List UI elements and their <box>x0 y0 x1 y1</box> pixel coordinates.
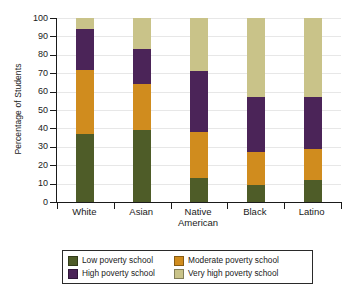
y-axis-tick-label: 20 <box>22 161 48 170</box>
y-axis-tick-label: 30 <box>22 142 48 151</box>
bar-segment <box>190 178 208 202</box>
y-axis-tick-label: 70 <box>22 69 48 78</box>
bar-latino <box>304 18 322 202</box>
bar-segment <box>247 18 265 97</box>
bar-segment <box>190 71 208 132</box>
x-axis-label: Latino <box>272 206 352 217</box>
legend-swatch <box>68 269 78 279</box>
y-axis-tick <box>50 55 57 56</box>
bar-white <box>76 18 94 202</box>
bar-segment <box>76 29 94 69</box>
chart-axes: 0102030405060708090100 <box>56 18 341 203</box>
legend-item: Moderate poverty school <box>174 256 306 266</box>
y-axis-tick-label: 50 <box>22 106 48 115</box>
legend-swatch <box>174 269 184 279</box>
legend-item: Low poverty school <box>68 256 172 266</box>
y-axis-tick-label: 100 <box>22 14 48 23</box>
y-axis-tick <box>50 18 57 19</box>
x-axis-label-line: Latino <box>272 206 352 217</box>
legend-label: Moderate poverty school <box>188 256 279 265</box>
bar-segment <box>304 18 322 97</box>
y-axis-tick <box>50 184 57 185</box>
legend-item: Very high poverty school <box>174 269 306 279</box>
legend-item: High poverty school <box>68 269 172 279</box>
y-axis-tick-label: 60 <box>22 87 48 96</box>
bar-segment <box>304 149 322 180</box>
legend-label: High poverty school <box>82 269 155 278</box>
bar-segment <box>247 185 265 202</box>
legend-swatch <box>174 256 184 266</box>
bar-segment <box>190 132 208 178</box>
y-axis-tick-label: 10 <box>22 179 48 188</box>
bar-segment <box>304 180 322 202</box>
bar-segment <box>133 49 151 84</box>
y-axis-tick <box>50 147 57 148</box>
y-axis-tick <box>50 165 57 166</box>
bar-segment <box>247 97 265 152</box>
bar-segment <box>133 84 151 130</box>
bar-segment <box>247 152 265 185</box>
y-axis-tick <box>50 73 57 74</box>
bar-segment <box>76 18 94 29</box>
y-axis-tick <box>50 36 57 37</box>
bar-segment <box>133 18 151 49</box>
legend-swatch <box>68 256 78 266</box>
bar-segment <box>76 70 94 134</box>
bar-segment <box>190 18 208 71</box>
x-axis-label-line: American <box>158 217 238 228</box>
plot-area: Percentage of Students 01020304050607080… <box>0 0 362 240</box>
bar-segment <box>133 130 151 202</box>
bar-segment <box>76 134 94 202</box>
y-axis-tick <box>50 202 57 203</box>
bar-segment <box>304 97 322 149</box>
stacked-bar-chart-figure: Percentage of Students 01020304050607080… <box>0 0 362 293</box>
y-axis-tick-label: 80 <box>22 50 48 59</box>
legend-label: Very high poverty school <box>188 269 278 278</box>
y-axis-tick <box>50 92 57 93</box>
y-axis-tick <box>50 128 57 129</box>
chart-legend: Low poverty schoolModerate poverty schoo… <box>62 250 313 284</box>
bar-native-american <box>190 18 208 202</box>
y-axis-tick-label: 40 <box>22 124 48 133</box>
bar-black <box>247 18 265 202</box>
y-axis-tick-label: 90 <box>22 32 48 41</box>
bar-asian <box>133 18 151 202</box>
y-axis-tick <box>50 110 57 111</box>
legend-label: Low poverty school <box>82 256 153 265</box>
